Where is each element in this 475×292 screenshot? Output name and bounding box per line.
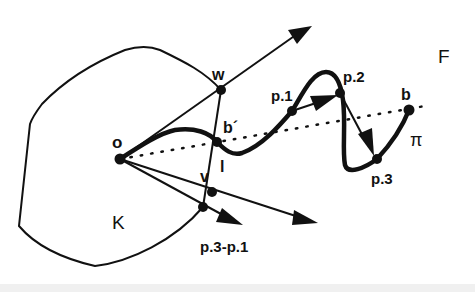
point-k-edge <box>198 202 208 212</box>
label-pi: π <box>410 130 422 150</box>
scan-edge-strip <box>0 284 475 292</box>
point-p1 <box>287 106 297 116</box>
label-p2: p.2 <box>343 68 365 85</box>
label-p3-minus-p1: p.3-p.1 <box>200 238 248 255</box>
arrowhead-p1-p2-icon <box>310 95 338 111</box>
label-l: l <box>220 158 224 175</box>
point-o <box>115 154 126 165</box>
path-pi <box>120 72 409 170</box>
label-region-k: K <box>112 212 125 233</box>
diagram-svg: o w b´ l v K F p.1 p.2 p.3 b π p.3-p.1 <box>0 0 475 292</box>
diagram-canvas: o w b´ l v K F p.1 p.2 p.3 b π p.3-p.1 <box>0 0 475 292</box>
label-b-prime: b´ <box>223 119 238 136</box>
label-b: b <box>401 86 411 103</box>
label-v: v <box>200 168 209 185</box>
lower-arrowhead-icon <box>292 210 318 225</box>
point-w <box>216 85 226 95</box>
point-b <box>404 105 415 116</box>
diff-arrowhead-icon <box>216 208 243 225</box>
point-p3 <box>372 154 382 164</box>
point-l <box>212 137 222 147</box>
point-v <box>207 187 217 197</box>
upper-arrowhead-icon <box>288 26 312 44</box>
label-region-f: F <box>438 46 450 67</box>
label-w: w <box>211 66 225 83</box>
label-p1: p.1 <box>271 87 293 104</box>
point-p2 <box>335 88 345 98</box>
label-o: o <box>112 133 122 152</box>
label-p3: p.3 <box>371 170 393 187</box>
